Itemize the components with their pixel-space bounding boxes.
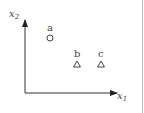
y-axis-label: x2 xyxy=(9,9,19,22)
point-c-triangle-icon xyxy=(98,61,105,67)
diagram: x2 x1 a b c xyxy=(0,0,144,113)
point-a-circle-icon xyxy=(47,35,53,41)
point-b-label: b xyxy=(74,49,80,59)
right-border xyxy=(142,0,143,113)
point-c-label: c xyxy=(98,49,104,59)
x-axis-label: x1 xyxy=(117,91,127,104)
point-b-triangle-icon xyxy=(74,61,81,67)
point-a-label: a xyxy=(47,23,53,33)
